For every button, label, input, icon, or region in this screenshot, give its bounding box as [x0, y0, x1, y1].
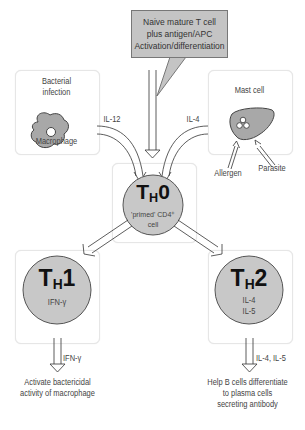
th2-outcome-line-2: to plasma cells — [197, 388, 298, 399]
mast-cell-label: Mast cell — [213, 85, 286, 96]
th1-num: 1 — [63, 265, 76, 291]
th2-output-arrow — [242, 338, 257, 372]
th1-outcome-line-2: activity of macrophage — [7, 388, 108, 399]
bacterial-infection-label: Bacterial infection — [20, 76, 93, 98]
il12-label: IL-12 — [100, 114, 125, 125]
th0-t: T — [136, 180, 149, 203]
callout-pointer — [157, 57, 186, 96]
th0-description: 'primed' CD4⁺ cell — [127, 210, 180, 230]
callout-line-2: plus antigen/APC — [132, 28, 227, 40]
th1-output-cytokine: IFN-γ — [63, 353, 89, 364]
th1-outcome-line-1: Activate bactericidal — [7, 377, 108, 388]
th2-outcome-line-1: Help B cells differentiate — [197, 377, 298, 388]
allergen-arrow — [228, 141, 240, 169]
th2-cytokine-1: IL-4 — [223, 295, 276, 306]
th2-t: T — [231, 265, 245, 291]
activation-arrow — [145, 70, 160, 158]
th0-to-th1-arrow — [83, 220, 132, 256]
th0-num: 0 — [158, 180, 170, 203]
th2-num: 2 — [255, 265, 268, 291]
il12-arrow — [97, 126, 146, 182]
parasite-label: Parasite — [254, 163, 289, 174]
th0-desc-line-1: 'primed' CD4⁺ — [127, 210, 180, 220]
th2-outcome-line-3: secreting antibody — [197, 399, 298, 410]
allergen-label: Allergen — [210, 168, 245, 179]
th2-outcome: Help B cells differentiate to plasma cel… — [197, 377, 298, 410]
bacterial-infection-line-1: Bacterial — [20, 76, 93, 87]
th1-outcome: Activate bactericidal activity of macrop… — [7, 377, 108, 399]
macrophage-label: Macrophage — [20, 136, 93, 147]
callout-line-3: Activation/differentiation — [132, 40, 227, 52]
th2-title: TH2 — [219, 265, 279, 292]
th0-to-th2-arrow — [174, 220, 222, 256]
il4-label: IL-4 — [182, 114, 203, 125]
il4-arrow — [159, 126, 208, 182]
th2-output-cytokine: IL-4, IL-5 — [256, 353, 300, 364]
bacterial-infection-line-2: infection — [20, 87, 93, 98]
mast-cell-icon — [230, 108, 274, 140]
th1-t: T — [39, 265, 53, 291]
th2-cytokine-2: IL-5 — [223, 306, 276, 317]
th2-sub: H — [245, 277, 255, 292]
th1-cytokine: IFN-γ — [31, 297, 84, 308]
th0-title: TH0 — [123, 180, 183, 205]
callout-line-1: Naive mature T cell — [132, 16, 227, 28]
th1-sub: H — [53, 277, 63, 292]
activation-callout: Naive mature T cell plus antigen/APC Act… — [131, 10, 228, 58]
th2-cytokines: IL-4 IL-5 — [223, 295, 276, 317]
th0-desc-line-2: cell — [127, 220, 180, 230]
th1-title: TH1 — [27, 265, 87, 292]
th0-sub: H — [149, 191, 158, 205]
